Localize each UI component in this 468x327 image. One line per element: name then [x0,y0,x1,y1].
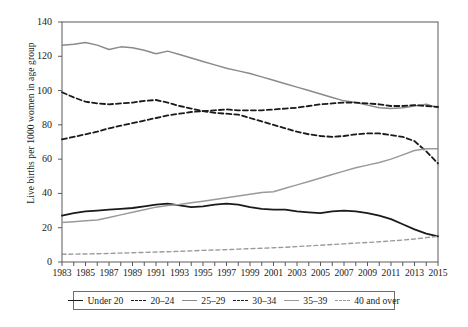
y-tick-label: 0 [26,257,52,267]
x-tick-label: 1995 [190,268,216,278]
y-tick-label: 100 [26,86,52,96]
x-tick-label: 2007 [331,268,357,278]
x-tick-label: 2013 [402,268,428,278]
series-line-40-and-over [62,236,438,254]
y-tick-label: 80 [26,120,52,130]
legend-label: 25–29 [201,295,225,306]
legend-swatch-icon [131,300,146,301]
series-line-25-29 [62,43,438,109]
series-line-35-39 [62,149,438,223]
legend-label: 40 and over [354,295,399,306]
y-tick-label: 40 [26,188,52,198]
legend-swatch-icon [182,300,197,301]
legend-label: 35–39 [303,295,327,306]
x-tick-label: 2011 [378,268,404,278]
x-tick-label: 2009 [355,268,381,278]
legend-swatch-icon [68,300,83,301]
x-tick-label: 1983 [49,268,75,278]
x-tick-label: 2005 [308,268,334,278]
x-tick-label: 1999 [237,268,263,278]
y-tick-label: 120 [26,51,52,61]
legend-swatch-icon [233,300,248,301]
legend-item[interactable]: 25–29 [178,295,229,306]
legend-label: Under 20 [87,295,123,306]
legend-item[interactable]: 40 and over [331,295,403,306]
y-tick-label: 20 [26,223,52,233]
legend-label: 30–34 [252,295,276,306]
legend-label: 20–24 [150,295,174,306]
x-tick-label: 1989 [120,268,146,278]
y-tick-label: 140 [26,17,52,27]
legend-item[interactable]: 35–39 [280,295,331,306]
legend-item[interactable]: Under 20 [64,295,127,306]
x-tick-label: 2015 [425,268,451,278]
plot-frame [62,22,438,262]
x-tick-label: 1987 [96,268,122,278]
x-tick-label: 1991 [143,268,169,278]
x-tick-label: 2003 [284,268,310,278]
x-tick-label: 2001 [261,268,287,278]
chart-container: Live births per 1000 women in age group … [0,0,468,327]
legend-item[interactable]: 30–34 [229,295,280,306]
x-tick-label: 1993 [167,268,193,278]
y-tick-label: 60 [26,154,52,164]
series-line-20-24 [62,92,438,163]
legend-swatch-icon [284,300,299,301]
series-line-under-20 [62,204,438,237]
x-tick-label: 1997 [214,268,240,278]
legend-item[interactable]: 20–24 [127,295,178,306]
chart-legend: Under 2020–2425–2930–3435–3940 and over [73,291,395,310]
x-tick-label: 1985 [73,268,99,278]
legend-swatch-icon [335,300,350,301]
